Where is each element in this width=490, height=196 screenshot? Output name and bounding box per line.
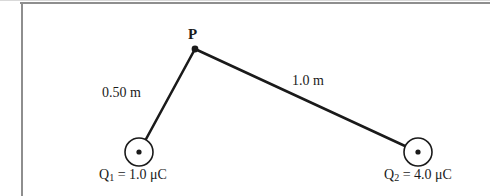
charge1-value: = 1.0 μC	[114, 167, 167, 182]
charge1-label: Q1 = 1.0 μC	[99, 168, 167, 183]
point-p-label: P	[188, 27, 197, 42]
point-p-dot	[192, 46, 199, 53]
charge2-symbol: Q	[384, 167, 394, 182]
segment-p-to-q2	[195, 49, 418, 152]
distance-right-label: 1.0 m	[292, 74, 324, 88]
charge1-symbol: Q	[99, 167, 109, 182]
figure-canvas: P 0.50 m 1.0 m Q1 = 1.0 μC Q2 = 4.0 μC	[0, 0, 490, 196]
charge1-center-dot	[136, 149, 141, 154]
charge2-value: = 4.0 μC	[399, 167, 452, 182]
segment-p-to-q1	[139, 49, 195, 152]
charge2-center-dot	[415, 149, 420, 154]
distance-left-label: 0.50 m	[102, 86, 141, 100]
charge2-label: Q2 = 4.0 μC	[384, 168, 452, 183]
